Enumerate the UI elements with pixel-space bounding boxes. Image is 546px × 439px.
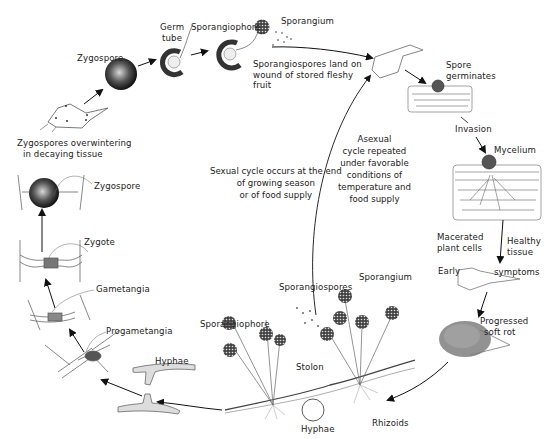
label-sporangiophore-bottom: Sporangiophore bbox=[200, 319, 270, 330]
label-sporangium-top: Sporangium bbox=[281, 16, 334, 27]
released-spores-icon bbox=[272, 31, 292, 46]
hyphae-left-icon bbox=[118, 364, 195, 414]
note-asexual-cycle: Asexual cycle repeated under favorable c… bbox=[338, 133, 411, 205]
label-hyphae-left: Hyphae bbox=[155, 356, 189, 367]
label-healthy-tissue: Healthy tissue bbox=[507, 236, 541, 257]
label-mycelium: Mycelium bbox=[494, 145, 536, 156]
hyphae-detail-circle bbox=[302, 399, 324, 421]
label-stolon: Stolon bbox=[296, 362, 324, 373]
label-germ-tube: Germ tube bbox=[160, 22, 184, 43]
spore-germinates-tissue-icon bbox=[408, 80, 472, 112]
label-invasion: Invasion bbox=[455, 124, 492, 135]
asexual-colony-icon bbox=[222, 289, 415, 421]
zygospore-left-icon bbox=[18, 175, 84, 210]
label-sporangium-bottom: Sporangium bbox=[359, 272, 412, 283]
label-progametangia: Progametangia bbox=[106, 326, 173, 337]
label-spore-germinates: Spore germinates bbox=[446, 60, 496, 81]
arrow-overwinter-to-zygospore bbox=[84, 90, 102, 104]
label-gametangia: Gametangia bbox=[96, 284, 150, 295]
label-progressed-soft-rot: Progressed soft rot bbox=[480, 316, 528, 337]
label-symptoms: symptoms bbox=[494, 267, 540, 278]
gametangia-icon bbox=[28, 295, 90, 330]
progametangia-icon bbox=[45, 330, 120, 378]
label-sporangiophore-top: Sporangiophore bbox=[191, 22, 261, 33]
fleshy-fruit-icon bbox=[372, 45, 423, 78]
overwintering-tissue-icon bbox=[40, 104, 108, 132]
mycelium-tissue-icon bbox=[453, 155, 541, 220]
zygote-icon bbox=[20, 240, 82, 282]
label-spores-land: Sporangiospores land on wound of stored … bbox=[253, 59, 362, 91]
label-overwintering: Zygospores overwintering in decaying tis… bbox=[17, 138, 132, 159]
label-rhizoids: Rhizoids bbox=[372, 418, 409, 429]
label-sporangiospores-bottom: Sporangiospores bbox=[279, 282, 352, 293]
label-zygospore-top: Zygospore bbox=[77, 53, 123, 64]
label-early: Early bbox=[438, 266, 460, 277]
label-macerated: Macerated plant cells bbox=[437, 232, 484, 253]
label-zygote: Zygote bbox=[84, 237, 115, 248]
note-sexual-cycle: Sexual cycle occurs at the end of growin… bbox=[210, 165, 342, 201]
label-zygospore-left: Zygospore bbox=[94, 181, 140, 192]
label-hyphae-bottom: Hyphae bbox=[301, 424, 335, 435]
